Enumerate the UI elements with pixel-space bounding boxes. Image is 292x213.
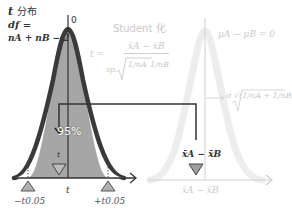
neg-crit-label: −t0.05: [14, 197, 45, 206]
t-symbol: t: [8, 5, 13, 18]
dist-title: t 分布: [8, 6, 37, 17]
dist-label: 分布: [17, 6, 37, 17]
formula-numerator: x̄A − x̄B: [124, 42, 169, 54]
pos-crit-triangle: [101, 181, 115, 191]
diff-marker-triangle: [189, 164, 203, 175]
formula-lhs: t =: [90, 50, 104, 59]
df-expression: nA + nB − 2: [8, 34, 70, 43]
percent-label: 95%: [57, 126, 81, 137]
pos-crit-label: +t0.05: [94, 197, 125, 206]
sigma-label: σ √(1/nA + 1/nB): [226, 92, 292, 100]
neg-crit-triangle: [21, 181, 35, 191]
standardize-heading: Student 化: [113, 24, 166, 34]
df-label: df =: [8, 20, 31, 30]
mean-label: μA − μB = 0: [218, 30, 275, 39]
t-marker-label: t: [57, 151, 60, 159]
t-axis-label: t: [66, 186, 70, 195]
formula-1-nB: 1/nB: [150, 61, 169, 69]
diff-marker-label: x̄A − x̄B: [182, 150, 221, 159]
formula-sp: sp: [106, 66, 115, 74]
zero-label: 0: [71, 16, 77, 25]
formula-1-nA: 1/nA: [128, 61, 147, 69]
diff-axis-label: x̄A − x̄B: [182, 186, 219, 195]
